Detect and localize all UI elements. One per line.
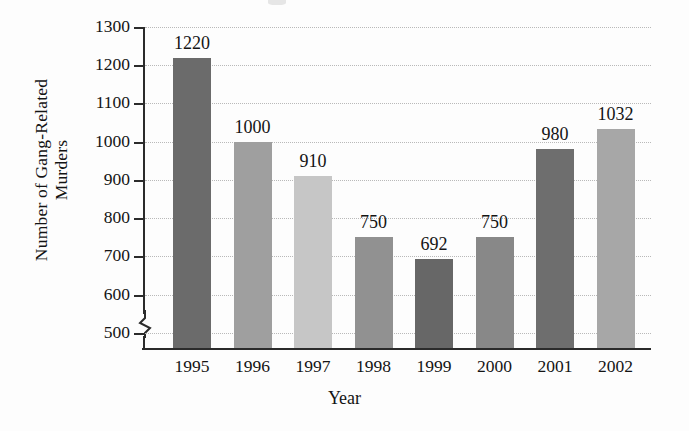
y-axis-tick-label: 1300 bbox=[74, 16, 130, 37]
y-axis-title: Number of Gang-Related Murders bbox=[32, 20, 72, 320]
x-axis-tick-label: 1997 bbox=[296, 356, 331, 377]
bar[interactable] bbox=[355, 237, 393, 348]
y-axis-tick-label: 900 bbox=[74, 169, 130, 190]
bar[interactable] bbox=[476, 237, 514, 348]
bar[interactable] bbox=[597, 129, 635, 348]
bar-value-label: 1000 bbox=[235, 117, 271, 138]
bar-value-label: 910 bbox=[300, 151, 327, 172]
bar-value-label: 980 bbox=[542, 124, 569, 145]
bar[interactable] bbox=[173, 58, 211, 348]
bar[interactable] bbox=[536, 149, 574, 348]
bar-value-label: 692 bbox=[421, 234, 448, 255]
y-axis-tick-label: 1100 bbox=[74, 93, 130, 114]
bar-value-label: 1220 bbox=[174, 33, 210, 54]
y-axis-title-line-1: Number of Gang-Related bbox=[32, 79, 52, 261]
y-axis-tick bbox=[134, 256, 144, 258]
x-axis-tick-label: 2000 bbox=[477, 356, 512, 377]
gridline bbox=[145, 295, 651, 296]
y-axis-tick-label: 1200 bbox=[74, 54, 130, 75]
x-axis-tick-label: 1996 bbox=[235, 356, 270, 377]
bar-value-label: 750 bbox=[481, 212, 508, 233]
y-axis-title-line-2: Murders bbox=[52, 140, 72, 201]
y-axis-tick bbox=[134, 180, 144, 182]
y-axis-tick-label: 600 bbox=[74, 284, 130, 305]
gridline bbox=[145, 218, 651, 219]
x-axis-tick-label: 2002 bbox=[598, 356, 633, 377]
y-axis-tick-label: 1000 bbox=[74, 131, 130, 152]
y-axis-tick bbox=[134, 65, 144, 67]
bar-value-label: 750 bbox=[360, 212, 387, 233]
bar[interactable] bbox=[415, 259, 453, 348]
gridline bbox=[145, 27, 651, 28]
gridline bbox=[145, 180, 651, 181]
y-axis-tick bbox=[134, 27, 144, 29]
gridline bbox=[145, 142, 651, 143]
gridline bbox=[145, 65, 651, 66]
plot-area: 5006007008009001000110012001300 12201000… bbox=[143, 24, 651, 350]
x-axis-title: Year bbox=[0, 388, 689, 409]
gridline bbox=[145, 333, 651, 334]
y-axis-tick bbox=[134, 333, 144, 335]
y-axis-tick bbox=[134, 218, 144, 220]
x-axis-tick-label: 1999 bbox=[417, 356, 452, 377]
bar[interactable] bbox=[234, 142, 272, 348]
bar[interactable] bbox=[294, 176, 332, 348]
y-axis-tick bbox=[134, 103, 144, 105]
y-axis-tick-label: 500 bbox=[74, 322, 130, 343]
y-axis-tick bbox=[134, 295, 144, 297]
gridline bbox=[145, 103, 651, 104]
y-axis-tick-label: 800 bbox=[74, 207, 130, 228]
cropped-title-artifact bbox=[268, 0, 286, 5]
x-axis-tick-label: 1995 bbox=[175, 356, 210, 377]
gridline bbox=[145, 256, 651, 257]
y-axis-spine bbox=[143, 27, 145, 314]
y-axis-tick bbox=[134, 142, 144, 144]
x-axis-spine bbox=[142, 348, 651, 350]
y-axis-tick-label: 700 bbox=[74, 245, 130, 266]
x-axis-tick-label: 1998 bbox=[356, 356, 391, 377]
x-axis-tick-label: 2001 bbox=[538, 356, 573, 377]
bar-value-label: 1032 bbox=[598, 104, 634, 125]
bar-chart: Number of Gang-Related Murders 500600700… bbox=[0, 0, 689, 431]
